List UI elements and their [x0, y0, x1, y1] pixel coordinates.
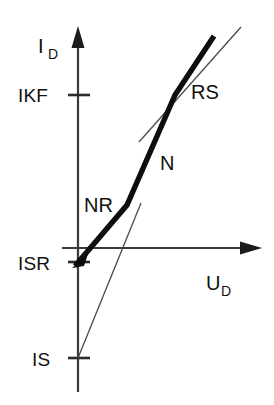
- x-axis-label-main: U: [206, 272, 221, 294]
- diode-characteristic-curve: [75, 36, 214, 266]
- tick-label-isr: ISR: [18, 253, 50, 274]
- x-axis-label: U D: [206, 272, 231, 299]
- arrow-up-icon: [72, 26, 85, 48]
- n-tangent-line: [139, 27, 241, 142]
- y-axis-label: I D: [38, 35, 58, 62]
- tick-label-is: IS: [32, 349, 50, 370]
- y-axis-group: [72, 26, 85, 392]
- region-label-n: N: [160, 152, 175, 174]
- diode-iv-plot: I D U D IKF ISR IS RS N NR: [0, 0, 274, 405]
- region-label-rs: RS: [191, 81, 219, 103]
- region-label-nr: NR: [84, 194, 113, 216]
- y-axis-label-main: I: [38, 35, 44, 57]
- tick-label-ikf: IKF: [18, 85, 48, 106]
- diode-iv-diagram: I D U D IKF ISR IS RS N NR: [0, 0, 274, 405]
- y-axis-label-sub: D: [48, 46, 58, 62]
- arrow-right-icon: [240, 242, 262, 255]
- x-axis-label-sub: D: [221, 283, 231, 299]
